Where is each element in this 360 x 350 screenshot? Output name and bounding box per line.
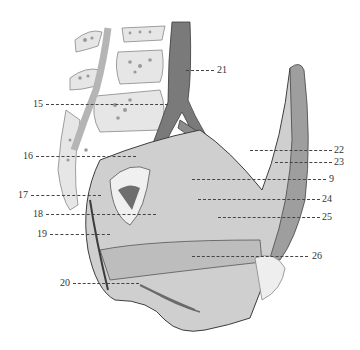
label-16: 16 xyxy=(23,151,33,161)
leader-line-17 xyxy=(31,195,101,196)
leader-line-23 xyxy=(275,162,332,163)
label-17: 17 xyxy=(18,190,28,200)
leader-line-9 xyxy=(192,179,326,180)
label-15: 15 xyxy=(33,99,43,109)
label-23: 23 xyxy=(334,157,344,167)
label-26: 26 xyxy=(312,251,322,261)
leader-line-22 xyxy=(250,150,332,151)
leader-line-20 xyxy=(73,283,139,284)
leader-line-24 xyxy=(198,199,320,200)
label-9: 9 xyxy=(329,174,334,184)
leader-line-19 xyxy=(50,234,110,235)
leader-line-16 xyxy=(36,156,136,157)
leader-line-25 xyxy=(218,217,320,218)
label-21: 21 xyxy=(217,65,227,75)
leader-line-18 xyxy=(46,214,156,215)
pelvis-illustration xyxy=(0,0,360,350)
label-25: 25 xyxy=(322,212,332,222)
label-18: 18 xyxy=(33,209,43,219)
leader-line-15 xyxy=(46,104,168,105)
label-22: 22 xyxy=(334,145,344,155)
label-19: 19 xyxy=(37,229,47,239)
label-24: 24 xyxy=(322,194,332,204)
leader-line-26 xyxy=(192,256,308,257)
leader-line-21 xyxy=(186,70,214,71)
label-20: 20 xyxy=(60,278,70,288)
